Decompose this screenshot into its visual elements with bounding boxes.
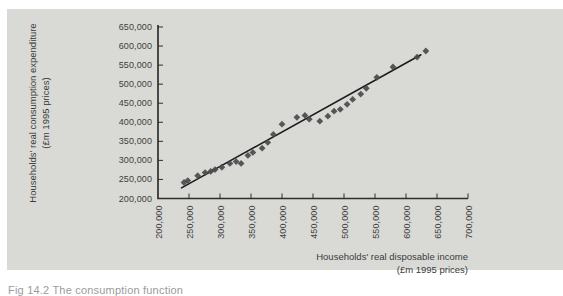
x-tick-label: 450,000 — [309, 206, 319, 239]
data-point — [357, 91, 364, 98]
y-axis-title-line1: Households' real consumption expenditure — [27, 23, 38, 202]
x-tick-label: 350,000 — [247, 206, 257, 239]
y-axis-title-line2: (£m 1995 prices) — [40, 77, 51, 148]
y-axis-title: Households' real consumption expenditure… — [27, 8, 53, 218]
x-tick-label: 650,000 — [433, 206, 443, 239]
data-point — [344, 101, 351, 108]
y-tick-label: 450,000 — [119, 98, 152, 108]
y-tick-label: 500,000 — [119, 79, 152, 89]
data-point — [264, 139, 271, 146]
x-tick-label: 300,000 — [216, 206, 226, 239]
data-point — [422, 48, 429, 55]
data-point — [259, 145, 266, 152]
trend-line — [182, 55, 421, 188]
data-point — [349, 96, 356, 103]
x-axis-title: Households' real disposable income (£m 1… — [316, 251, 468, 276]
y-tick-label: 550,000 — [119, 60, 152, 70]
x-axis-title-line1: Households' real disposable income — [316, 251, 468, 262]
data-point — [324, 113, 331, 120]
data-point — [202, 169, 209, 176]
y-tick-label: 300,000 — [119, 155, 152, 165]
data-point — [270, 131, 277, 138]
y-tick-label: 200,000 — [119, 194, 152, 204]
data-point — [306, 116, 313, 123]
x-tick-label: 250,000 — [185, 206, 195, 239]
y-tick-label: 650,000 — [119, 22, 152, 32]
data-point — [373, 74, 380, 81]
y-tick-label: 250,000 — [119, 174, 152, 184]
figure-caption-clipped: Fig 14.2 The consumption function — [8, 284, 183, 296]
data-point — [293, 114, 300, 121]
data-point — [227, 160, 234, 167]
y-tick-label: 400,000 — [119, 117, 152, 127]
data-point — [337, 106, 344, 113]
y-tick-label: 350,000 — [119, 136, 152, 146]
x-tick-label: 500,000 — [340, 206, 350, 239]
x-tick-label: 200,000 — [154, 206, 164, 239]
x-tick-label: 400,000 — [278, 206, 288, 239]
data-point — [316, 118, 323, 125]
x-tick-label: 550,000 — [371, 206, 381, 239]
data-point — [279, 121, 286, 128]
x-axis-title-line2: (£m 1995 prices) — [397, 264, 468, 275]
y-tick-label: 600,000 — [119, 41, 152, 51]
data-point — [331, 108, 338, 115]
x-tick-label: 700,000 — [464, 206, 474, 239]
x-tick-label: 600,000 — [402, 206, 412, 239]
